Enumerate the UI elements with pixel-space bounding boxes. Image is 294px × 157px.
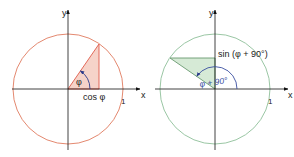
x-axis-label: x	[288, 90, 293, 100]
unit-circle-figure: y x 1 φ cos φ y x 1 sin (φ + 90°) φ + 90…	[0, 0, 294, 157]
left-diagram: y x 1 φ cos φ	[12, 8, 146, 150]
tick-one-label: 1	[121, 97, 126, 106]
right-diagram: y x 1 sin (φ + 90°) φ + 90°	[155, 8, 293, 150]
tick-one-label: 1	[268, 97, 273, 106]
sin-label: sin (φ + 90°)	[218, 49, 268, 59]
angle-phi-label: φ	[76, 77, 82, 87]
x-axis-label: x	[141, 90, 146, 100]
y-axis-label: y	[62, 8, 67, 18]
cos-triangle	[68, 44, 99, 89]
y-axis-label: y	[209, 8, 214, 18]
cos-phi-label: cos φ	[83, 92, 106, 102]
